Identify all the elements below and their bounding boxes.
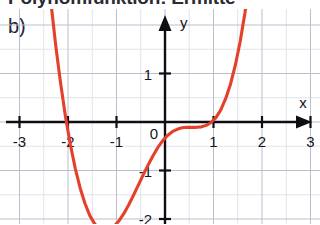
y-axis-label: y [180,14,188,31]
y-tick-label: 1 [144,66,152,83]
grid-lines-major [0,9,320,224]
curve-clip-group [51,0,274,224]
x-tick-label: 3 [306,133,314,150]
y-tick-label: -2 [139,211,152,224]
x-tick-label: 1 [209,133,217,150]
origin-label: 0 [150,125,158,142]
x-tick-label: -1 [110,133,123,150]
axis-tick-labels: -3-2-11231-1-2 [13,66,315,225]
x-tick-label: 2 [258,133,266,150]
grid-lines-minor [0,9,320,224]
axes [6,15,312,224]
function-curve [51,0,274,224]
y-axis-arrow-icon [159,15,172,31]
curve-path [51,0,274,224]
coordinate-plot: -3-2-11231-1-2 x y 0 [0,0,320,224]
figure-panel: Polynomfunktion: Ermitte b) -3-2-11231-1… [0,0,320,224]
x-tick-label: -3 [13,133,26,150]
x-axis-label: x [299,94,307,111]
